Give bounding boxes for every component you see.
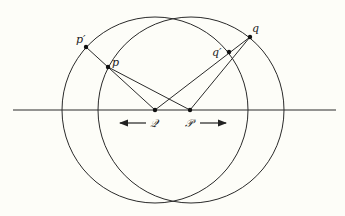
segment-p-to-P — [108, 67, 190, 110]
point-q-prime — [227, 50, 231, 54]
point-p — [106, 65, 110, 69]
segment-p-prime-to-Q — [86, 47, 155, 110]
label-q-prime: q′ — [212, 46, 222, 59]
label-p: p — [112, 56, 119, 69]
label-q: q — [252, 22, 259, 35]
label-Q: 𝒬 — [150, 117, 160, 130]
point-Q — [153, 108, 157, 112]
label-p-prime: p′ — [76, 33, 86, 46]
point-q — [248, 35, 252, 39]
diagram-canvas: p′ p q′ q 𝒬 𝒫 — [0, 0, 345, 216]
segment-q-to-Q — [155, 37, 250, 110]
point-P — [188, 108, 192, 112]
label-P: 𝒫 — [185, 117, 196, 130]
